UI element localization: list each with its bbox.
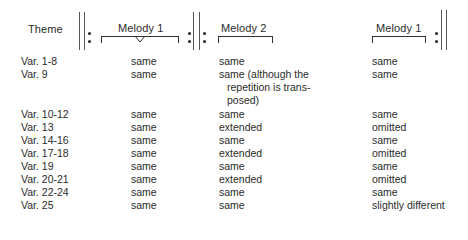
melody-1-return-cell: same [372,55,398,68]
melody-1-cell: same [131,68,157,81]
variation-label: Var. 14-16 [21,134,69,147]
melody-2-cell: same [219,199,359,212]
melody-1-return-cell: same [372,160,398,173]
melody-1-cell: same [131,55,157,68]
melody-1-cell: same [131,134,157,147]
melody-2-cell: extended [219,147,359,160]
header-melody-1-return: Melody 1 [376,22,421,34]
melody-1-return-cell: same [372,108,398,121]
melody-2-cell: same [219,160,359,173]
melody-1-return-cell: same [372,134,398,147]
melody-2-cell: same [219,108,359,121]
variation-label: Var. 19 [21,160,54,173]
melody-1-return-cell: same [372,68,398,81]
variation-label: Var. 13 [21,121,54,134]
melody-1-cell: same [131,186,157,199]
melody-1-cell: same [131,121,157,134]
variation-label: Var. 25 [21,199,54,212]
melody-2-cell: same (although the repetition is trans- … [219,68,359,107]
variation-label: Var. 10-12 [21,108,69,121]
melody-1-cell: same [131,160,157,173]
melody-1-return-cell: same [372,186,398,199]
header-melody-1: Melody 1 [118,22,163,34]
variation-label: Var. 17-18 [21,147,69,160]
melody-1-cell: same [131,199,157,212]
melody-1-cell: same [131,108,157,121]
variation-label: Var. 1-8 [21,55,57,68]
melody-2-cell: extended [219,173,359,186]
header-theme: Theme [28,23,63,35]
melody-1-return-bracket-icon [372,36,426,43]
melody-2-cell: same [219,134,359,147]
melody-1-return-cell: omitted [372,147,406,160]
variation-label: Var. 9 [21,68,48,81]
variation-label: Var. 20-21 [21,173,69,186]
melody-1-return-cell: omitted [372,121,406,134]
melody-1-cell: same [131,173,157,186]
melody-2-bracket-icon [218,36,273,43]
variation-label: Var. 22-24 [21,186,69,199]
header-melody-2: Melody 2 [221,22,266,34]
melody-2-cell: same [219,186,359,199]
melody-2-cell: extended [219,121,359,134]
melody-2-cell: same [219,55,359,68]
melody-1-return-cell: omitted [372,173,406,186]
melody-1-return-cell: slightly different [372,199,445,212]
melody-1-cell: same [131,147,157,160]
